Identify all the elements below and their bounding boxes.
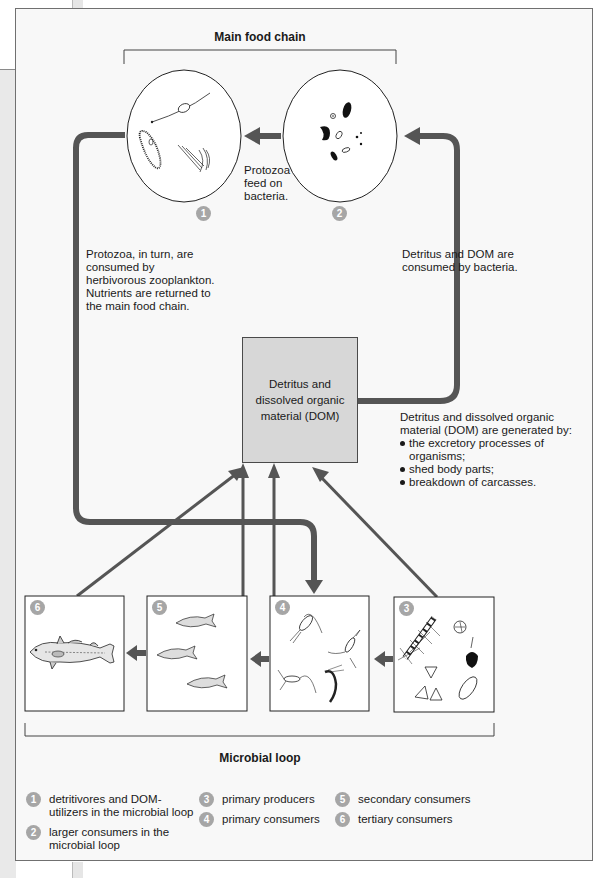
arrows-to-dom (77, 463, 437, 597)
badge-6: 6 (30, 600, 45, 615)
microbial-loop-bracket (25, 723, 494, 736)
legend-item-2: 2 larger consumers in the microbial loop (26, 826, 176, 852)
legend-text-1: detritivores and DOM-utilizers in the mi… (49, 793, 196, 819)
main-food-chain-title: Main food chain (160, 31, 360, 44)
badge-4: 4 (275, 600, 290, 615)
legend-badge-5: 5 (335, 792, 350, 807)
dom-box-label: Detritus and dissolved organic material … (249, 376, 351, 424)
dom-generated-list: the excretory processes of organisms; sh… (400, 437, 580, 489)
legend-text-2: larger consumers in the microbial loop (49, 826, 176, 852)
legend-text-4: primary consumers (222, 813, 320, 826)
dom-generated-annotation: Detritus and dissolved organic material … (400, 411, 580, 489)
badge-1: 1 (196, 206, 211, 221)
legend-item-1: 1 detritivores and DOM-utilizers in the … (26, 793, 196, 819)
legend-badge-3: 3 (199, 792, 214, 807)
legend-item-6: 6 tertiary consumers (335, 813, 453, 827)
legend-item-4: 4 primary consumers (199, 813, 320, 827)
legend-item-3: 3 primary producers (199, 793, 315, 807)
legend-badge-6: 6 (335, 812, 350, 827)
bacteria-circle (283, 70, 397, 202)
main-food-chain-bracket (124, 50, 396, 64)
dom-box: Detritus and dissolved organic material … (242, 337, 358, 463)
legend-badge-1: 1 (26, 792, 41, 807)
protozoa-circle (127, 70, 241, 202)
list-item: the excretory processes of organisms; (400, 437, 580, 463)
list-item: shed body parts; (400, 463, 580, 476)
legend-item-5: 5 secondary consumers (335, 793, 471, 807)
badge-2: 2 (332, 206, 347, 221)
protozoa-consumed-annotation: Protozoa, in turn, are consumed by herbi… (86, 248, 216, 313)
legend-text-5: secondary consumers (358, 793, 471, 806)
legend-text-3: primary producers (222, 793, 315, 806)
badge-3: 3 (399, 601, 414, 616)
arrow-bacteria-to-protozoa (244, 127, 281, 145)
legend-badge-2: 2 (26, 825, 41, 840)
list-item: breakdown of carcasses. (400, 476, 580, 489)
legend-text-6: tertiary consumers (358, 813, 453, 826)
legend-badge-4: 4 (199, 812, 214, 827)
microbial-loop-title: Microbial loop (160, 752, 360, 765)
dom-generated-intro: Detritus and dissolved organic material … (400, 411, 580, 437)
dom-consumed-annotation: Detritus and DOM are consumed by bacteri… (402, 248, 532, 274)
badge-5: 5 (152, 600, 167, 615)
protozoa-feed-annotation: Protozoa feed on bacteria. (244, 164, 286, 203)
